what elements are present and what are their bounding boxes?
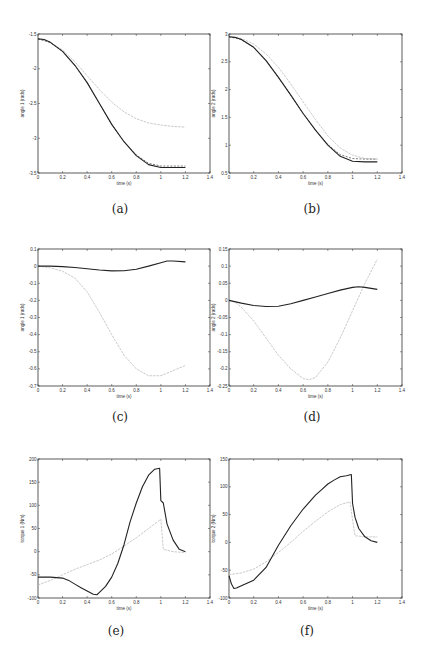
series-uncontrolled	[229, 502, 377, 575]
caption-f: (f)	[287, 624, 327, 638]
y-tick-label: -50	[221, 568, 228, 573]
x-axis-label: time (s)	[308, 606, 324, 611]
panel-f: 00.20.40.60.811.21.4-100-50050100150time…	[0, 0, 425, 668]
x-tick-label: 1.4	[399, 600, 406, 605]
y-tick-label: 100	[220, 484, 228, 489]
x-tick-label: 0.6	[300, 600, 307, 605]
x-tick-label: 0.8	[325, 600, 332, 605]
y-tick-label: 150	[220, 457, 228, 462]
plot-f: 00.20.40.60.811.21.4-100-50050100150time…	[0, 0, 425, 668]
y-tick-label: -100	[218, 596, 228, 601]
y-axis-label: torque 2 (Nm)	[211, 514, 216, 542]
x-tick-label: 0.4	[275, 600, 282, 605]
y-tick-label: 50	[222, 512, 228, 517]
y-tick-label: 0	[225, 540, 228, 545]
x-tick-label: 1.2	[374, 600, 381, 605]
x-tick-label: 0	[228, 600, 231, 605]
plot-frame	[229, 459, 402, 598]
x-tick-label: 1	[351, 600, 354, 605]
x-tick-label: 0.2	[251, 600, 258, 605]
